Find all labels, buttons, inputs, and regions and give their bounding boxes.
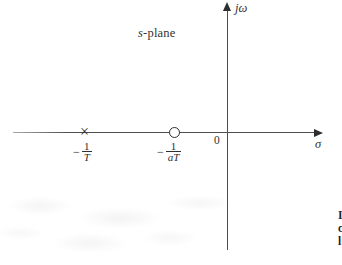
cropped-caption-fragments: I c l <box>338 209 342 257</box>
zero-label-sign: − <box>157 145 164 160</box>
horizontal-axis-label: σ <box>315 137 321 152</box>
vertical-axis-label: jω <box>235 1 247 16</box>
origin-label: 0 <box>214 134 220 146</box>
zero-label-numerator: 1 <box>166 141 182 151</box>
caption-fragment: c <box>338 222 342 235</box>
vertical-axis-line <box>227 9 228 250</box>
zero-label: − 1 aT <box>157 141 181 163</box>
horizontal-axis-line <box>13 132 316 133</box>
horizontal-axis-arrow-icon <box>314 129 323 137</box>
caption-fragment: I <box>338 209 342 222</box>
pole-zero-diagram: s-plane jω σ 0 × − 1 T − 1 aT I c l <box>0 0 342 265</box>
pole-label-sign: − <box>73 145 80 160</box>
zero-label-denominator: aT <box>166 151 182 163</box>
pole-label-denominator: T <box>82 151 92 163</box>
pole-label-numerator: 1 <box>82 141 92 151</box>
plane-label: s-plane <box>138 26 176 41</box>
plane-label-rest: -plane <box>143 26 175 40</box>
pole-label-fraction: 1 T <box>82 141 92 163</box>
scan-texture <box>0 188 342 265</box>
zero-marker-icon <box>169 127 180 138</box>
pole-marker-icon: × <box>80 124 89 140</box>
pole-label: − 1 T <box>73 141 92 163</box>
zero-label-fraction: 1 aT <box>166 141 182 163</box>
caption-fragment: l <box>338 235 342 248</box>
vertical-axis-arrow-icon <box>223 2 231 11</box>
